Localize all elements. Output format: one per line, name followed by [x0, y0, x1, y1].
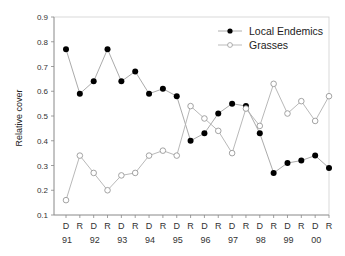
data-point — [229, 150, 235, 156]
y-tick-label: 0.8 — [37, 38, 49, 47]
x-tick-label: D — [118, 221, 125, 231]
data-point — [284, 160, 290, 166]
data-point — [257, 123, 263, 129]
x-year-label: 96 — [200, 235, 210, 245]
x-tick-label: R — [270, 221, 277, 231]
x-tick-label: D — [257, 221, 264, 231]
series-group — [63, 46, 332, 203]
x-tick-label: R — [215, 221, 222, 231]
data-point — [188, 138, 194, 144]
data-point — [285, 111, 291, 117]
y-axis: 0.10.20.30.40.50.60.70.80.9 — [37, 13, 54, 220]
data-point — [146, 91, 152, 97]
x-tick-label: D — [201, 221, 208, 231]
data-point — [63, 197, 69, 203]
data-point — [118, 78, 124, 84]
data-point — [160, 86, 166, 92]
data-point — [160, 148, 166, 154]
line-chart: 0.10.20.30.40.50.60.70.80.9 DRDRDRDRDRDR… — [0, 0, 345, 256]
x-year-label: 91 — [62, 235, 72, 245]
open-circle-marker-icon — [228, 43, 233, 48]
x-year-label: 98 — [256, 235, 266, 245]
y-axis-label: Relative cover — [14, 89, 24, 146]
data-point — [201, 130, 207, 136]
data-point — [326, 93, 332, 99]
x-year-label: 99 — [283, 235, 293, 245]
data-point — [132, 68, 138, 74]
data-point — [63, 46, 69, 52]
x-year-label: 97 — [228, 235, 238, 245]
x-tick-label: R — [187, 221, 194, 231]
data-point — [215, 128, 221, 134]
data-point — [105, 187, 111, 193]
y-tick-label: 0.6 — [37, 87, 49, 96]
x-year-label: 95 — [173, 235, 183, 245]
data-point — [174, 93, 180, 99]
y-tick-label: 0.5 — [37, 112, 49, 121]
data-point — [146, 153, 152, 159]
y-tick-label: 0.3 — [37, 162, 49, 171]
data-point — [91, 78, 97, 84]
data-point — [299, 98, 305, 104]
data-point — [312, 153, 318, 159]
series-local-endemics — [63, 46, 332, 176]
legend-item-grasses: Grasses — [249, 39, 288, 51]
x-tick-label: R — [104, 221, 111, 231]
y-tick-label: 0.9 — [37, 13, 49, 22]
x-tick-label: D — [173, 221, 180, 231]
x-tick-label: R — [243, 221, 250, 231]
x-tick-label: R — [298, 221, 305, 231]
x-tick-label: D — [63, 221, 70, 231]
x-tick-label: D — [229, 221, 236, 231]
filled-circle-marker-icon — [227, 28, 232, 33]
data-point — [271, 81, 277, 87]
x-tick-label: R — [326, 221, 333, 231]
x-tick-label: D — [284, 221, 291, 231]
data-point — [77, 91, 83, 97]
data-point — [174, 153, 180, 159]
y-tick-label: 0.2 — [37, 186, 49, 195]
data-point — [202, 116, 208, 122]
x-year-label: 00 — [311, 235, 321, 245]
y-tick-label: 0.1 — [37, 211, 49, 220]
data-point — [119, 173, 125, 179]
data-point — [326, 165, 332, 171]
x-tick-label: D — [90, 221, 97, 231]
legend-item-local-endemics: Local Endemics — [249, 25, 323, 37]
x-tick-label: D — [146, 221, 153, 231]
data-point — [257, 130, 263, 136]
data-point — [91, 170, 97, 176]
legend: Local Endemics Grasses — [218, 25, 323, 51]
x-tick-label: R — [132, 221, 139, 231]
data-point — [271, 170, 277, 176]
y-tick-label: 0.4 — [37, 137, 49, 146]
data-point — [132, 170, 138, 176]
data-point — [229, 101, 235, 107]
x-year-label: 94 — [145, 235, 155, 245]
series-grasses — [63, 81, 332, 203]
data-point — [77, 153, 83, 159]
data-point — [312, 118, 318, 124]
x-tick-label: R — [77, 221, 84, 231]
data-point — [105, 46, 111, 52]
x-tick-label: D — [312, 221, 319, 231]
x-axis: DRDRDRDRDRDRDRDRDRDR91929394959697989900 — [54, 215, 333, 245]
x-year-label: 92 — [90, 235, 100, 245]
data-point — [298, 158, 304, 164]
data-point — [188, 103, 194, 109]
x-year-label: 93 — [117, 235, 127, 245]
x-tick-label: R — [160, 221, 167, 231]
data-point — [243, 106, 249, 112]
y-tick-label: 0.7 — [37, 63, 49, 72]
data-point — [215, 111, 221, 117]
